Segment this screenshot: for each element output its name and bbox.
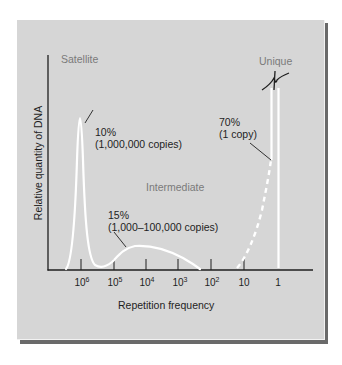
unique-rising-dashed: [237, 160, 271, 268]
intermediate-leader: [114, 232, 126, 247]
satellite-copies: (1,000,000 copies): [95, 138, 182, 150]
x-tick-label: 10: [238, 277, 249, 288]
x-tick-label: 105: [107, 277, 122, 288]
axis-break-mark: [262, 73, 289, 90]
unique-region-label: Unique: [259, 55, 292, 67]
x-tick-label: 103: [172, 277, 187, 288]
x-tick-label: 104: [139, 277, 154, 288]
unique-percent: 70%: [219, 116, 240, 128]
satellite-percent: 10%: [95, 126, 116, 138]
y-axis-title: Relative quantity of DNA: [32, 106, 44, 220]
axis-break-stem: [274, 71, 275, 90]
intermediate-percent: 15%: [108, 209, 129, 221]
x-tick-label: 1: [275, 277, 281, 288]
unique-leader: [250, 143, 271, 160]
unique-copies: (1 copy): [219, 128, 257, 140]
satellite-leader: [85, 110, 93, 123]
intermediate-region-label: Intermediate: [146, 181, 204, 193]
x-ticks: [81, 259, 244, 270]
x-axis-title: Repetition frequency: [118, 299, 214, 311]
x-tick-label: 106: [74, 277, 89, 288]
intermediate-copies: (1,000–100,000 copies): [108, 221, 218, 233]
x-tick-label: 102: [204, 277, 219, 288]
satellite-region-label: Satellite: [61, 53, 98, 65]
